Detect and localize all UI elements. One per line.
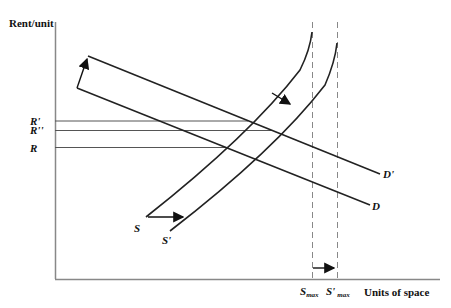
demand-label-d-prime: D' [382, 168, 394, 180]
y-axis-label: Rent/unit [9, 17, 54, 29]
supply-shift-arrow-upper [272, 93, 290, 104]
rent-diagram: Rent/unit Units of space R' R'' R D' D S… [0, 0, 451, 308]
supply-label-s: S [134, 222, 140, 234]
x-axis-label: Units of space [364, 286, 430, 298]
s-prime-max-label: S'max [326, 285, 350, 299]
supply-curve-s [146, 32, 312, 217]
demand-shift-arrow [77, 59, 87, 88]
s-max-label: Smax [300, 285, 319, 299]
demand-label-d: D [371, 200, 380, 212]
supply-label-s-prime: S' [162, 234, 171, 246]
supply-curve-s-prime [170, 43, 337, 231]
rent-label-r: R [29, 142, 37, 154]
rent-label-r-double-prime: R'' [29, 124, 43, 136]
demand-curve-d-prime [88, 56, 380, 174]
